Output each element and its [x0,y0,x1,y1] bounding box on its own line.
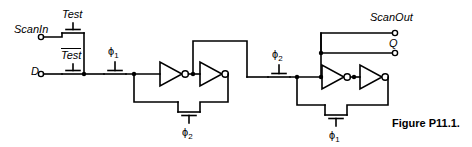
scan-out-terminal-dot [392,30,397,35]
q-terminal-dot [392,50,397,55]
wire-latch1-fb-left [134,74,178,102]
wire-latch2-fb-right [347,77,388,115]
phi2-feedback-subscript: 2 [188,132,192,141]
wire-scanout [321,33,392,53]
junction-dot-latch2-mid [352,75,356,79]
phi1-feedback-subscript: 1 [335,135,339,144]
wire-latch1-fb-right [200,74,228,112]
test-bar-gate-label: Test [61,48,81,61]
inverter-1-stage2-bubble [344,74,350,80]
junction-dot-latch2-out [319,75,323,79]
phi1-feedback-gate-label: ϕ1 [329,130,340,144]
phi1-input-subscript: 1 [114,51,118,60]
phi1-input-gate-label: ϕ1 [108,46,119,60]
inverter-1-stage1-bubble [182,71,188,77]
scan-out-label: ScanOut [370,12,413,23]
phi2-feedback-gate-label: ϕ2 [182,127,193,141]
data-in-label: D [31,66,39,77]
figure-caption: Figure P11.1. [392,118,460,129]
inverter-2-stage1-body [200,62,222,86]
inverter-2-stage2-body [360,65,382,89]
figure-container: ScanIn Test Test D ϕ1 ϕ2 ϕ2 ϕ1 ScanOut Q… [0,0,472,147]
test-gate-label: Test [62,9,82,20]
inverter-1-stage2-body [322,65,344,89]
wire-latch1-mid-to-stage2 [193,41,247,77]
wire-latch2-fb-left [297,77,325,105]
phi2-stage2-gate-label: ϕ2 [272,49,283,63]
scan-in-label: ScanIn [14,24,48,35]
inverter-1-stage1-body [160,62,182,86]
phi2-stage2-subscript: 2 [278,54,282,63]
q-out-label: Q [389,38,398,49]
